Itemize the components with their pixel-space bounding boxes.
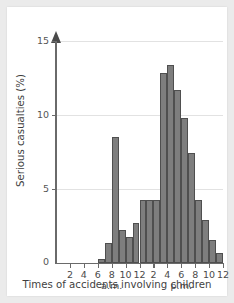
x-tick-mark — [195, 263, 196, 268]
histogram-bar — [167, 65, 174, 263]
histogram-bar — [216, 253, 223, 263]
x-tick-mark — [223, 263, 224, 268]
x-tick-mark — [70, 263, 71, 268]
histogram-bars — [56, 41, 223, 263]
histogram-bar — [188, 153, 195, 263]
x-tick-mark — [84, 263, 85, 268]
x-axis-title: Times of accidents involving children — [7, 279, 227, 290]
x-tick-mark — [209, 263, 210, 268]
chart-figure: 15 10 5 0 2468101224681012 a.m.p.m. Time… — [0, 0, 234, 303]
x-tick-mark — [140, 263, 141, 268]
histogram-bar — [112, 137, 119, 263]
histogram-bar — [160, 73, 167, 263]
histogram-plot-area: 15 10 5 0 2468101224681012 a.m.p.m. Time… — [7, 7, 227, 296]
x-tick-mark — [153, 263, 154, 268]
chart-plate: 15 10 5 0 2468101224681012 a.m.p.m. Time… — [7, 7, 227, 296]
histogram-bar — [119, 230, 126, 263]
y-tick-label-15: 15 — [29, 36, 49, 46]
histogram-bar — [202, 220, 209, 263]
x-tick-mark — [98, 263, 99, 268]
histogram-bar — [195, 200, 202, 263]
histogram-bar — [140, 200, 147, 263]
histogram-bar — [181, 118, 188, 263]
x-tick-mark — [181, 263, 182, 268]
histogram-bar — [153, 200, 160, 263]
y-tick-label-0: 0 — [29, 257, 49, 267]
y-axis-title: Serious casualties (%) — [15, 56, 26, 206]
histogram-bar — [174, 90, 181, 263]
x-tick-mark — [126, 263, 127, 268]
histogram-bar — [126, 237, 133, 263]
histogram-bar — [209, 240, 216, 263]
x-tick-mark — [167, 263, 168, 268]
histogram-bar — [146, 200, 153, 263]
histogram-bar — [105, 243, 112, 263]
y-tick-label-5: 5 — [29, 184, 49, 194]
x-tick-mark — [112, 263, 113, 268]
y-tick-label-10: 10 — [29, 110, 49, 120]
histogram-bar — [133, 223, 140, 263]
